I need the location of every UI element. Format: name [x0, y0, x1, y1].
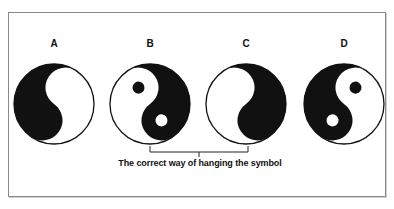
bracket-b-c: [148, 146, 250, 158]
yin-yang-icon-a: [13, 63, 95, 145]
yin-yang-icon-d: [303, 63, 385, 145]
yin-yang-icon-c: [205, 63, 287, 145]
yin-yang-icon-b: [109, 63, 191, 145]
label-c: C: [236, 38, 256, 49]
label-b: B: [140, 38, 160, 49]
label-d: D: [334, 38, 354, 49]
label-a: A: [44, 38, 64, 49]
caption: The correct way of hanging the symbol: [110, 158, 290, 168]
